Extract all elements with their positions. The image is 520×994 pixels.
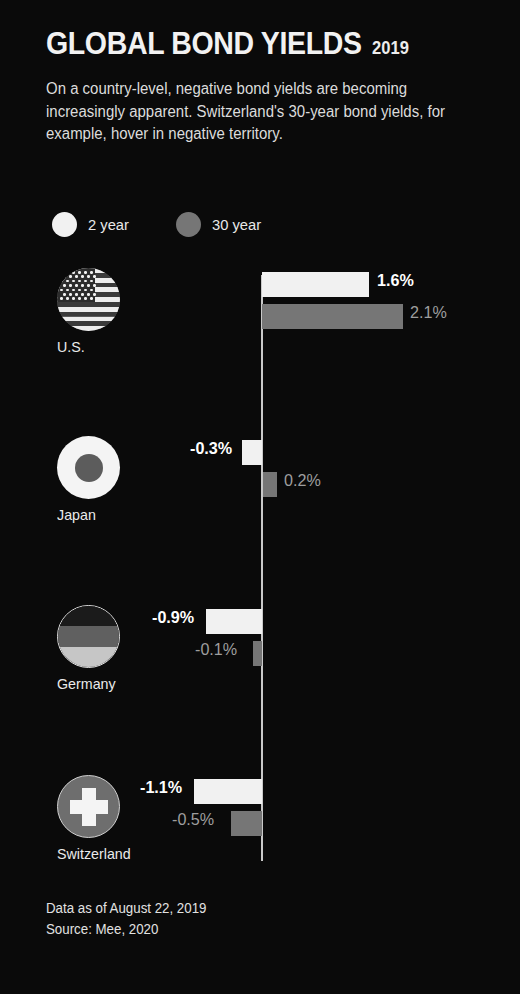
us-star (93, 275, 96, 278)
bar-value-30-year: 0.2% (284, 471, 321, 491)
us-stripe (57, 326, 120, 331)
flag-united-states-icon (57, 268, 120, 331)
us-star (72, 289, 75, 292)
us-star (69, 275, 72, 278)
legend-item-2-year[interactable]: 2 year (52, 212, 131, 237)
bar-value-2-year: -1.1% (140, 778, 182, 798)
chart-row-switzerland: Switzerland -1.1% -0.5% (0, 765, 520, 895)
us-star (90, 289, 93, 292)
japan-disc (75, 454, 103, 482)
title-row: GLOBAL BOND YIELDS 2019 (46, 26, 486, 62)
footer: Data as of August 22, 2019 Source: Mee, … (46, 898, 215, 940)
us-star (81, 284, 84, 287)
country-label: Germany (57, 675, 238, 692)
us-star (60, 289, 63, 292)
us-star (63, 284, 66, 287)
country-label: Switzerland (57, 845, 238, 862)
us-star (78, 297, 81, 300)
us-star (66, 271, 69, 274)
bar-value-2-year: -0.9% (152, 608, 194, 628)
us-star (84, 280, 87, 283)
country-label: Japan (57, 506, 238, 523)
us-star (81, 293, 84, 296)
us-star (60, 280, 63, 283)
us-star (63, 293, 66, 296)
us-star (63, 275, 66, 278)
legend-item-30-year[interactable]: 30 year (176, 212, 264, 237)
germany-band-dark-gray (58, 626, 119, 646)
flag-japan-icon (57, 436, 120, 499)
legend: 2 year 30 year (52, 212, 264, 237)
legend-item-label: 30 year (212, 216, 261, 234)
us-star (84, 289, 87, 292)
us-star (90, 297, 93, 300)
header: GLOBAL BOND YIELDS 2019 On a country-lev… (46, 26, 486, 146)
us-star (69, 293, 72, 296)
us-star (87, 284, 90, 287)
legend-item-label: 2 year (88, 216, 129, 234)
us-star (72, 280, 75, 283)
us-star (75, 293, 78, 296)
infographic-global-bond-yields: GLOBAL BOND YIELDS 2019 On a country-lev… (0, 0, 520, 994)
country-label: U.S. (57, 338, 238, 355)
bar-2-year[interactable] (262, 272, 369, 297)
us-star (66, 289, 69, 292)
footer-data-date: Data as of August 22, 2019 (46, 898, 206, 919)
us-star (66, 297, 69, 300)
subtitle: On a country-level, negative bond yields… (46, 78, 449, 146)
switzerland-cross-horizontal (70, 800, 108, 814)
us-star (60, 297, 63, 300)
flag-germany-icon (57, 605, 120, 668)
us-star (75, 284, 78, 287)
footer-source: Source: Mee, 2020 (46, 919, 206, 940)
us-star (93, 284, 96, 287)
bar-2-year[interactable] (206, 609, 262, 634)
bar-30-year[interactable] (253, 641, 262, 666)
bar-value-2-year: 1.6% (377, 271, 414, 291)
us-star (60, 271, 63, 274)
bar-value-2-year: -0.3% (190, 439, 232, 459)
bar-value-30-year: -0.1% (195, 640, 237, 660)
us-star (75, 275, 78, 278)
bar-30-year[interactable] (231, 811, 262, 836)
us-star (66, 280, 69, 283)
bar-chart: U.S. 1.6% 2.1% Japan -0.3% 0.2% Germany (0, 258, 520, 868)
us-canton (57, 268, 95, 302)
us-star (87, 275, 90, 278)
flag-switzerland-icon (57, 775, 120, 838)
title-year: 2019 (372, 38, 409, 59)
us-star (81, 275, 84, 278)
us-star (90, 280, 93, 283)
us-star (72, 297, 75, 300)
bar-value-30-year: 2.1% (410, 303, 447, 323)
us-star (78, 280, 81, 283)
us-star (90, 271, 93, 274)
page-title: GLOBAL BOND YIELDS (46, 26, 362, 62)
us-star (78, 271, 81, 274)
chart-row-japan: Japan -0.3% 0.2% (0, 426, 520, 556)
bar-value-30-year: -0.5% (172, 810, 214, 830)
us-star (84, 271, 87, 274)
chart-row-us: U.S. 1.6% 2.1% (0, 258, 520, 388)
us-star (93, 293, 96, 296)
bar-30-year[interactable] (263, 472, 277, 497)
germany-band-black (58, 606, 119, 626)
circle-icon (52, 212, 77, 237)
us-star (78, 289, 81, 292)
bar-2-year[interactable] (242, 440, 262, 465)
us-star (69, 284, 72, 287)
bar-2-year[interactable] (194, 779, 262, 804)
chart-row-germany: Germany -0.9% -0.1% (0, 595, 520, 725)
germany-band-light-gray (58, 647, 119, 667)
us-star (72, 271, 75, 274)
circle-icon (176, 212, 201, 237)
us-star (87, 293, 90, 296)
us-star (84, 297, 87, 300)
bar-30-year[interactable] (262, 304, 403, 329)
